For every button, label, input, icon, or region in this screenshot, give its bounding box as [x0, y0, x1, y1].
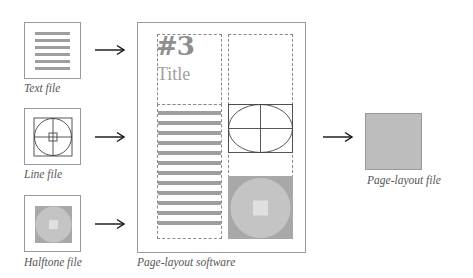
layout-line-art-icon — [228, 104, 293, 154]
arrow-right-icon — [322, 131, 354, 143]
page-layout-file-box — [365, 113, 422, 170]
page-heading-number: #3 — [156, 31, 194, 61]
line-file-label: Line file — [24, 168, 62, 180]
line-file-box — [24, 108, 81, 165]
page-heading-title: Title — [157, 63, 190, 85]
page-layout-file-label: Page-layout file — [367, 174, 441, 186]
halftone-file-box — [24, 195, 81, 252]
page-layout-software-box: #3 Title — [137, 22, 306, 253]
line-art-icon — [25, 109, 82, 166]
halftone-image-icon — [25, 196, 82, 253]
layout-halftone-image-icon — [228, 176, 293, 239]
halftone-file-label: Halftone file — [24, 256, 82, 268]
layout-frame-top-right — [228, 34, 293, 105]
page-layout-software-label: Page-layout software — [137, 256, 235, 268]
arrow-right-icon — [94, 131, 126, 143]
text-file-label: Text file — [24, 82, 60, 94]
arrow-right-icon — [94, 218, 126, 230]
text-file-box — [24, 22, 81, 79]
arrow-right-icon — [94, 44, 126, 56]
